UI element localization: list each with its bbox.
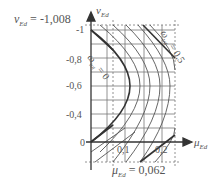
x-tick: 0,1 bbox=[117, 144, 130, 155]
x-axis-label: μEd bbox=[194, 136, 207, 151]
y-tick: -1 bbox=[76, 24, 84, 35]
y-tick: -0,8 bbox=[66, 54, 82, 65]
y-tick: 0 bbox=[80, 137, 85, 148]
mu-value-annotation: μEd = 0,062 bbox=[112, 163, 166, 179]
axes bbox=[86, 12, 192, 170]
y-tick: -0,6 bbox=[66, 80, 82, 91]
v-value-annotation: vEd = -1,008 bbox=[14, 12, 71, 28]
x-tick: 0,2 bbox=[155, 144, 168, 155]
y-axis-label: vEd bbox=[96, 4, 109, 19]
y-tick: -0,4 bbox=[66, 109, 82, 120]
